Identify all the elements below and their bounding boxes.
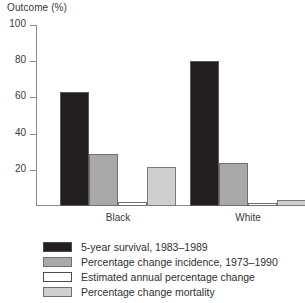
bar	[60, 92, 89, 206]
y-axis-tick-label: 80	[15, 54, 26, 65]
y-axis-tick-label: 100	[9, 18, 26, 29]
bar	[118, 202, 147, 206]
bar	[219, 163, 248, 206]
light-gray-swatch	[43, 287, 72, 297]
y-axis-tick-label: 40	[15, 127, 26, 138]
bar	[277, 200, 305, 206]
bar	[248, 203, 277, 206]
x-axis-category-label: White	[190, 212, 305, 223]
bar	[89, 154, 118, 206]
x-axis-category-label: Black	[60, 212, 176, 223]
y-axis-title: Outcome (%)	[7, 2, 67, 13]
bar-chart: Outcome (%) 20406080100 BlackWhite 5-yea…	[0, 0, 305, 303]
legend-item: Percentage change incidence, 1973–1990	[43, 254, 301, 269]
legend-item: Percentage change mortality	[43, 284, 301, 299]
medium-gray-swatch	[43, 257, 72, 267]
legend-item-label: Percentage change incidence, 1973–1990	[81, 256, 278, 268]
plot-area	[36, 25, 298, 206]
chart-legend: 5-year survival, 1983–1989Percentage cha…	[43, 239, 301, 299]
y-axis-tick-label: 60	[15, 90, 26, 101]
bar	[190, 61, 219, 206]
legend-item-label: Percentage change mortality	[81, 286, 215, 298]
legend-item-label: Estimated annual percentage change	[81, 271, 255, 283]
legend-item: 5-year survival, 1983–1989	[43, 239, 301, 254]
white-swatch	[43, 272, 72, 282]
dark-swatch	[43, 242, 72, 252]
y-axis-tick-label: 20	[15, 163, 26, 174]
bar	[147, 167, 176, 206]
legend-item-label: 5-year survival, 1983–1989	[81, 241, 208, 253]
legend-item: Estimated annual percentage change	[43, 269, 301, 284]
